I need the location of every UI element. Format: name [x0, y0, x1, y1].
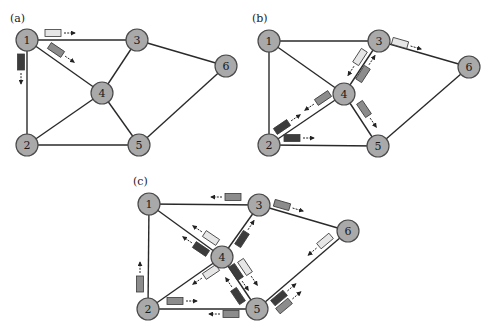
node-6: 6	[215, 55, 237, 77]
direction-arrow-icon	[305, 104, 314, 110]
node-label: 3	[376, 35, 383, 48]
packet-dark	[18, 54, 25, 84]
packet-rect	[231, 287, 246, 304]
edges	[27, 40, 226, 145]
direction-arrow-icon	[248, 221, 254, 230]
node-label: 4	[219, 251, 226, 264]
node-2: 2	[258, 134, 280, 156]
node-2: 2	[137, 298, 159, 320]
packet-medium	[357, 100, 377, 127]
panel-c: (c)123456	[133, 175, 359, 320]
direction-arrow-icon	[291, 115, 300, 121]
packet-medium	[273, 199, 303, 211]
link-5-6	[257, 231, 348, 309]
node-label: 5	[254, 303, 261, 316]
panel-label: (b)	[252, 12, 268, 25]
panel-b: (b)123456	[252, 12, 480, 157]
node-1: 1	[258, 30, 280, 52]
packet-rect	[192, 242, 209, 257]
node-3: 3	[126, 29, 148, 51]
link-1-4	[149, 204, 222, 257]
edges	[148, 204, 348, 309]
packet-rect	[273, 199, 290, 210]
node-6: 6	[458, 56, 480, 78]
packet-medium	[211, 194, 241, 201]
direction-arrow-icon	[226, 278, 232, 287]
packets	[137, 194, 334, 318]
link-2-4	[269, 94, 344, 145]
packet-rect	[235, 230, 250, 247]
direction-arrow-icon	[348, 66, 354, 75]
direction-arrow-icon	[369, 56, 375, 65]
node-label: 3	[256, 199, 263, 212]
node-5: 5	[128, 134, 150, 156]
panel-label: (c)	[133, 175, 148, 188]
node-5: 5	[246, 298, 268, 320]
node-label: 4	[341, 88, 348, 101]
panel-label: (a)	[10, 12, 25, 25]
direction-arrow-icon	[193, 278, 202, 284]
node-label: 2	[24, 139, 31, 152]
packet-dark	[284, 135, 314, 142]
packet-medium	[209, 311, 239, 318]
node-4: 4	[333, 83, 355, 105]
node-label: 1	[146, 198, 153, 211]
packet-rect	[357, 100, 372, 117]
node-1: 1	[138, 193, 160, 215]
packet-dark	[273, 115, 300, 135]
node-5: 5	[367, 135, 389, 157]
node-2: 2	[16, 134, 38, 156]
packet-medium	[305, 91, 332, 111]
node-4: 4	[91, 82, 113, 104]
packet-medium	[167, 298, 197, 305]
node-1: 1	[16, 29, 38, 51]
node-label: 1	[24, 34, 31, 47]
link-5-6	[139, 66, 226, 145]
link-1-4	[27, 40, 102, 93]
node-label: 5	[375, 140, 382, 153]
node-label: 6	[223, 60, 230, 73]
packet-light	[391, 37, 421, 49]
node-6: 6	[337, 220, 359, 242]
node-label: 2	[145, 303, 152, 316]
direction-arrow-icon	[183, 237, 192, 243]
packet-rect	[47, 43, 64, 58]
node-label: 3	[134, 34, 141, 47]
link-2-5	[269, 145, 378, 146]
packet-medium	[47, 43, 74, 63]
direction-arrow-icon	[411, 46, 422, 49]
link-3-6	[259, 205, 348, 231]
packet-rect	[284, 135, 300, 142]
node-3: 3	[368, 30, 390, 52]
node-3: 3	[248, 194, 270, 216]
direction-arrow-icon	[293, 208, 304, 211]
node-label: 6	[466, 61, 473, 74]
node-label: 5	[136, 139, 143, 152]
packet-dark	[183, 237, 210, 257]
node-label: 6	[345, 225, 352, 238]
link-1-3	[149, 204, 259, 205]
direction-arrow-icon	[251, 276, 257, 285]
link-2-4	[27, 93, 102, 145]
panel-a: (a)123456	[10, 12, 237, 156]
packet-light	[308, 233, 333, 255]
direction-arrow-icon	[287, 284, 295, 291]
packet-rect	[391, 37, 408, 48]
link-2-4	[148, 257, 222, 309]
direction-arrow-icon	[193, 226, 202, 232]
packet-medium	[137, 262, 144, 292]
link-1-4	[269, 41, 344, 94]
packet-rect	[202, 231, 219, 246]
network-diagram-canvas: (a)123456(b)123456(c)123456	[0, 0, 494, 330]
link-5-6	[378, 67, 469, 146]
direction-arrow-icon	[370, 118, 376, 127]
packet-light	[45, 30, 75, 37]
packet-rect	[225, 194, 241, 201]
node-4: 4	[211, 246, 233, 268]
packet-rect	[45, 30, 61, 37]
node-label: 4	[99, 87, 106, 100]
link-3-6	[137, 40, 226, 66]
packet-rect	[223, 311, 239, 318]
edges	[269, 41, 469, 146]
packet-rect	[137, 276, 144, 292]
